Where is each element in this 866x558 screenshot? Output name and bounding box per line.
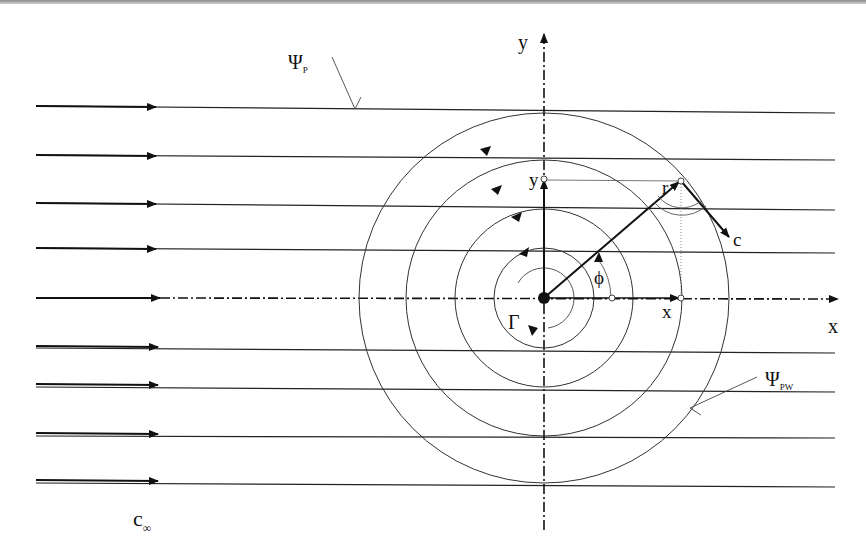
radius-vector bbox=[544, 182, 679, 298]
psi-pw-pointer bbox=[690, 377, 757, 415]
x-axis-label: x bbox=[828, 316, 838, 336]
y-axis-label: y bbox=[518, 32, 528, 52]
circulation-label: Γ bbox=[508, 312, 520, 332]
point-y-label: y bbox=[529, 170, 539, 189]
velocity-label: c bbox=[733, 230, 741, 249]
freestream-arrows bbox=[36, 106, 160, 481]
freestream-lines bbox=[36, 106, 835, 487]
stream-function-parallel-label: ΨP bbox=[288, 52, 308, 75]
flow-diagram bbox=[0, 0, 866, 558]
angle-label: ϕ bbox=[594, 268, 604, 287]
stream-function-combined-label: ΨPW bbox=[765, 369, 793, 392]
psi-p-pointer bbox=[332, 57, 361, 109]
radius-label: r bbox=[662, 178, 668, 197]
x-axis bbox=[160, 298, 838, 299]
freestream-velocity-label: c∞ bbox=[133, 508, 151, 534]
point-x-label: x bbox=[662, 302, 672, 321]
